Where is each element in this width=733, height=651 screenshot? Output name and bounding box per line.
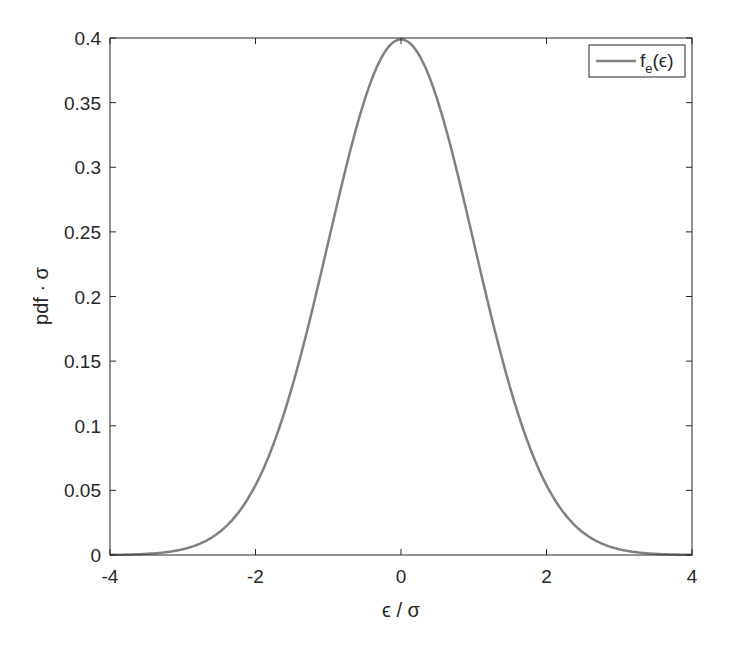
y-tick-label: 0.05 xyxy=(64,480,101,501)
legend[interactable]: fe(ϵ) xyxy=(589,45,685,77)
x-axis-label: ϵ / σ xyxy=(382,599,421,621)
y-tick-label: 0.35 xyxy=(64,93,101,114)
y-tick-label: 0.3 xyxy=(75,157,101,178)
figure: -4-2024 00.050.10.150.20.250.30.350.4 ϵ … xyxy=(0,0,733,651)
plot-area xyxy=(110,38,692,555)
y-tick-label: 0.1 xyxy=(75,416,101,437)
x-tick-label: 0 xyxy=(396,566,407,587)
x-tick-label: -4 xyxy=(102,566,119,587)
x-tick-label: 4 xyxy=(687,566,698,587)
y-axis-label: pdf · σ xyxy=(30,266,52,325)
x-tick-label: -2 xyxy=(247,566,264,587)
y-tick-label: 0.4 xyxy=(75,28,102,49)
y-tick-label: 0.2 xyxy=(75,287,101,308)
y-tick-label: 0.15 xyxy=(64,351,101,372)
axes-background xyxy=(110,38,692,555)
x-tick-label: 2 xyxy=(541,566,552,587)
y-tick-label: 0.25 xyxy=(64,222,101,243)
y-tick-label: 0 xyxy=(90,545,101,566)
